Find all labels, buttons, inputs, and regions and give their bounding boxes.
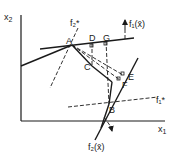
constraint-top bbox=[40, 38, 134, 49]
f2-gradient-arrow bbox=[111, 127, 112, 131]
axes bbox=[21, 15, 165, 121]
path-C-knee bbox=[92, 66, 112, 82]
point-E: E bbox=[128, 72, 134, 82]
y-axis-label: x2 bbox=[4, 12, 13, 23]
point-A: A bbox=[66, 36, 72, 46]
f2-star-label: f₂* bbox=[70, 18, 80, 28]
dash-A-F bbox=[72, 45, 120, 80]
constraints bbox=[21, 38, 138, 140]
point-F: F bbox=[122, 80, 128, 90]
dash-G bbox=[106, 41, 109, 104]
x-axis-label: x1 bbox=[158, 124, 167, 135]
f1-star-label: f₁* bbox=[156, 95, 166, 105]
path-knee-B bbox=[109, 82, 112, 104]
point-D: D bbox=[89, 33, 96, 43]
point-C: C bbox=[84, 62, 91, 72]
f2-star-line bbox=[50, 28, 78, 88]
f2-gradient-label: f₂(x̄) bbox=[88, 142, 105, 152]
diagram: x2 x1 A B C D E F G f₁(x̄) f₂(x̄) f₁* f₂… bbox=[0, 0, 176, 159]
point-G: G bbox=[103, 33, 110, 43]
f1-gradient-label: f₁(x̄) bbox=[129, 19, 145, 29]
point-B: B bbox=[109, 105, 115, 115]
